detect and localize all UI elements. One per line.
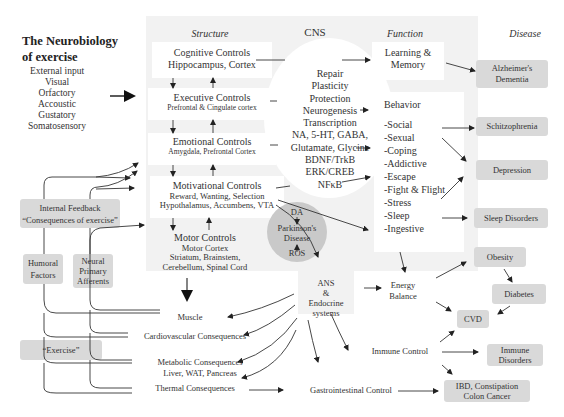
- ans-endocrine: ANS & Endocrine systems: [298, 278, 354, 318]
- input-visual: Visual: [22, 77, 92, 88]
- input-accoustic: Accoustic: [22, 99, 92, 110]
- cognitive-controls: Cognitive Controls Hippocampus, Cortex: [152, 47, 272, 70]
- metabolic-line-1: Metabolic Consequences: [140, 357, 260, 368]
- metabolic-line-2: Liver, WAT, Pancreas: [140, 368, 260, 379]
- disease-cvd: CVD: [457, 310, 489, 328]
- internal-feedback-line-1: Internal Feedback: [20, 202, 120, 214]
- behavior-escape: -Escape: [384, 170, 445, 183]
- mech-protection: Protection: [282, 93, 378, 105]
- immune-control: Immune Control: [365, 347, 435, 357]
- external-input-label: External input: [22, 66, 92, 77]
- diagram-title: The Neurobiology of exercise: [22, 33, 118, 66]
- behavior-sleep: -Sleep: [384, 209, 445, 222]
- ans-line-2: &: [298, 288, 354, 298]
- parkinsons-ros: ROS: [267, 248, 327, 258]
- title-line-1: The Neurobiology: [22, 33, 118, 49]
- disease-diabetes: Diabetes: [492, 284, 546, 304]
- mech-transcription: Transcription: [282, 117, 378, 129]
- behavior-title: Behavior: [384, 98, 421, 111]
- parkinsons-label-2: Disease: [267, 233, 327, 243]
- humoral-line-1: Humoral: [23, 257, 63, 269]
- cns-mechanisms: Repair Plasticity Protection Neurogenesi…: [282, 68, 378, 191]
- disease-alzheimers: Alzheimer's Dementia: [476, 60, 548, 88]
- motor-title: Motor Controls: [150, 232, 260, 244]
- disease-obesity: Obesity: [474, 247, 526, 267]
- parkinsons-disease: DA Parkinson's Disease ROS: [267, 207, 327, 258]
- disease-sleep-disorders: Sleep Disorders: [474, 208, 548, 228]
- behavior-sexual: -Sexual: [384, 131, 445, 144]
- cognitive-sub: Hippocampus, Cortex: [152, 59, 272, 71]
- alzheimers-line-2: Dementia: [476, 74, 548, 85]
- mech-plasticity: Plasticity: [282, 80, 378, 92]
- exercise-box: “Exercise”: [20, 340, 102, 360]
- disease-schizophrenia: Schitzophrenia: [476, 117, 548, 136]
- neural-line-2: Primary: [73, 266, 113, 276]
- consequence-thermal: Thermal Consequences: [140, 384, 250, 394]
- consequence-metabolic: Metabolic Consequences Liver, WAT, Pancr…: [140, 357, 260, 379]
- motor-controls: Motor Controls Motor Cortex Striatum, Br…: [150, 232, 260, 273]
- header-structure: Structure: [180, 28, 240, 40]
- alzheimers-line-1: Alzheimer's: [476, 63, 548, 74]
- consequence-cardio: Cardiovascular Consequences: [130, 332, 260, 342]
- behavior-addictive: -Addictive: [384, 157, 445, 170]
- behavior-list: -Social -Sexual -Coping -Addictive -Esca…: [384, 118, 445, 235]
- mech-nfkb: NFκB: [282, 179, 378, 191]
- external-input-list: External input Visual Orfactory Accousti…: [22, 66, 92, 132]
- learning-line-2: Memory: [372, 59, 444, 71]
- parkinsons-da: DA: [267, 207, 327, 217]
- header-cns: CNS: [295, 26, 335, 39]
- immune-line-1: Immune: [487, 345, 543, 355]
- parkinsons-label-1: Parkinson's: [267, 223, 327, 233]
- disease-ibd: IBD, Constipation Colon Cancer: [444, 380, 530, 402]
- learning-line-1: Learning &: [372, 47, 444, 59]
- ans-line-4: systems: [298, 308, 354, 318]
- behavior-ingestive: -Ingestive: [384, 222, 445, 235]
- mech-neurotransmitters-1: NA, 5-HT, GABA,: [282, 129, 378, 141]
- mech-neurotransmitters-2: Glutamate, Glycine: [282, 142, 378, 154]
- cognitive-title: Cognitive Controls: [152, 47, 272, 59]
- neural-afferents-box: Neural Primary Afferents: [73, 254, 113, 288]
- neural-line-3: Afferents: [73, 276, 113, 286]
- neural-line-1: Neural: [73, 256, 113, 266]
- gi-control: Gastrointestinal Control: [296, 386, 406, 396]
- behavior-social: -Social: [384, 118, 445, 131]
- ibd-line-1: IBD, Constipation: [444, 381, 530, 391]
- motivational-sub-2: Hypothalamus, Accumbens, VTA: [150, 201, 284, 211]
- executive-controls: Executive Controls Prefrontal & Cingulat…: [148, 92, 276, 112]
- mech-bdnf: BDNF/TrkB: [282, 154, 378, 166]
- motivational-controls: Motivational Controls Reward, Wanting, S…: [150, 180, 284, 211]
- behavior-coping: -Coping: [384, 144, 445, 157]
- humoral-factors-box: Humoral Factors: [23, 254, 63, 284]
- behavior-fight-flight: -Fight & Flight: [384, 183, 445, 196]
- mech-repair: Repair: [282, 68, 378, 80]
- consequence-muscle: Muscle: [170, 313, 210, 323]
- header-function: Function: [375, 28, 435, 40]
- ans-line-3: Endocrine: [298, 298, 354, 308]
- motor-sub-3: Cerebellum, Spinal Cord: [150, 263, 260, 273]
- input-gustatory: Gustatory: [22, 110, 92, 121]
- internal-feedback-line-2: “Consequences of exercise”: [20, 214, 120, 226]
- executive-sub: Prefrontal & Cingulate cortex: [148, 104, 276, 113]
- mech-erk: ERK/CREB: [282, 166, 378, 178]
- ans-line-1: ANS: [298, 278, 354, 288]
- input-orfactory: Orfactory: [22, 88, 92, 99]
- input-somatosensory: Somatosensory: [22, 121, 92, 132]
- emotional-title: Emotional Controls: [148, 136, 276, 148]
- energy-balance: Energy Balance: [383, 280, 423, 302]
- emotional-controls: Emotional Controls Amygdala, Prefrontal …: [148, 136, 276, 156]
- internal-feedback-box: Internal Feedback “Consequences of exerc…: [20, 199, 120, 228]
- immune-line-2: Disorders: [487, 355, 543, 365]
- mech-neurogenesis: Neurogenesis: [282, 105, 378, 117]
- learning-memory: Learning & Memory: [372, 47, 444, 70]
- title-line-2: of exercise: [22, 49, 118, 65]
- behavior-stress: -Stress: [384, 196, 445, 209]
- energy-line-2: Balance: [383, 291, 423, 302]
- ibd-line-2: Colon Cancer: [444, 391, 530, 401]
- motivational-title: Motivational Controls: [150, 180, 284, 192]
- header-disease: Disease: [500, 28, 550, 40]
- executive-title: Executive Controls: [148, 92, 276, 104]
- disease-depression: Depression: [476, 160, 548, 180]
- emotional-sub: Amygdala, Prefrontal Cortex: [148, 148, 276, 157]
- energy-line-1: Energy: [383, 280, 423, 291]
- disease-immune: Immune Disorders: [487, 344, 543, 366]
